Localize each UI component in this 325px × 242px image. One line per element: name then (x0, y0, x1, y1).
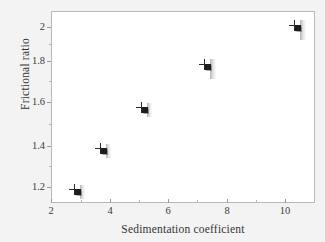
x-major-tick-10 (285, 199, 286, 203)
x-major-tick-6 (168, 199, 169, 203)
x-tick-label-2: 2 (39, 206, 63, 217)
y-tick-label-1-6: 1.6 (19, 97, 45, 108)
x-minor-tick (197, 200, 198, 202)
x-tick-label-6: 6 (156, 206, 180, 217)
y-tick-label-2: 2 (19, 22, 45, 33)
x-minor-tick (256, 200, 257, 202)
x-minor-tick (314, 200, 315, 202)
x-minor-tick (139, 200, 140, 202)
x-axis-title: Sedimentation coefficient (51, 223, 315, 235)
plot-area (52, 12, 314, 202)
x-tick-label-10: 10 (273, 206, 297, 217)
y-tick-label-1-2: 1.2 (19, 182, 45, 193)
x-tick-label-8: 8 (215, 206, 239, 217)
y-tick-label-1-4: 1.4 (19, 141, 45, 152)
square-marker-icon (101, 148, 107, 154)
x-major-tick-2 (51, 199, 52, 203)
square-marker-icon (75, 189, 81, 195)
x-tick-label-4: 4 (98, 206, 122, 217)
scatter-plot-figure: Frictional ratio 2 1.8 1.6 1.4 1.2 (0, 0, 325, 242)
x-major-tick-4 (110, 199, 111, 203)
x-minor-tick (81, 200, 82, 202)
y-tick-label-1-8: 1.8 (19, 56, 45, 67)
square-marker-icon (142, 107, 148, 113)
plot-frame (51, 11, 315, 203)
square-marker-icon (205, 64, 211, 70)
x-major-tick-8 (227, 199, 228, 203)
square-marker-icon (295, 25, 301, 31)
